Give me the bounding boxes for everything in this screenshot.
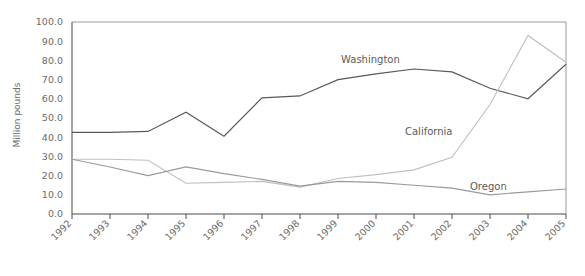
x-tick-label: 1998 — [277, 218, 302, 243]
x-tick-label: 1994 — [125, 218, 150, 243]
x-tick-label: 1992 — [49, 218, 74, 243]
x-tick-label: 2000 — [353, 218, 378, 243]
x-tick-label: 1999 — [315, 218, 340, 243]
x-tick-label: 2003 — [467, 218, 492, 243]
x-tick-label: 1995 — [163, 218, 188, 243]
y-tick-label: 0.0 — [48, 208, 63, 219]
series-line-california — [72, 35, 566, 187]
y-axis-title: Million pounds — [12, 82, 22, 147]
y-tick-label: 40.0 — [42, 132, 63, 143]
x-tick-label: 1993 — [87, 218, 112, 243]
x-tick-label: 2002 — [429, 218, 454, 243]
y-tick-label: 70.0 — [42, 74, 63, 85]
y-tick-label: 20.0 — [42, 170, 63, 181]
y-tick-label: 50.0 — [42, 112, 63, 123]
x-tick-label: 2004 — [505, 218, 530, 243]
x-axis-tick-labels: 1992199319941995199619971998199920002001… — [49, 218, 568, 243]
series-label-california: California — [405, 126, 453, 137]
y-tick-label: 30.0 — [42, 151, 63, 162]
line-chart: Million pounds 0.010.020.030.040.050.060… — [0, 0, 585, 276]
y-tick-label: 10.0 — [42, 189, 63, 200]
x-tick-label: 2005 — [543, 218, 568, 243]
y-axis-tick-labels: 0.010.020.030.040.050.060.070.080.090.01… — [36, 16, 63, 219]
x-tick-label: 1996 — [201, 218, 226, 243]
series-label-washington: Washington — [341, 54, 400, 65]
y-tick-label: 60.0 — [42, 93, 63, 104]
y-tick-label: 100.0 — [36, 16, 63, 27]
y-tick-label: 90.0 — [42, 36, 63, 47]
chart-canvas: Million pounds 0.010.020.030.040.050.060… — [0, 0, 585, 276]
series-label-oregon: Oregon — [470, 181, 507, 192]
x-tick-label: 2001 — [391, 218, 416, 243]
series-inline-labels: WashingtonCaliforniaOregon — [341, 54, 507, 192]
x-tick-label: 1997 — [239, 218, 264, 243]
x-axis-tick-marks — [72, 214, 566, 219]
series-lines — [72, 35, 566, 194]
y-tick-label: 80.0 — [42, 55, 63, 66]
